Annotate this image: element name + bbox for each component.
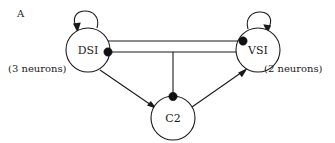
node-c2-label: C2 [165,112,180,125]
edge-dsi-to-c2 [100,70,154,107]
circuit-diagram: DSI VSI C2 A (3 neurons) (2 neurons) [0,0,335,143]
figure-panel: DSI VSI C2 A (3 neurons) (2 neurons) [0,0,335,143]
synapse-dot-dsi-to-vsi [239,37,247,45]
dsi-neuron-count-label: (3 neurons) [8,63,67,74]
vsi-neuron-count-label: (2 neurons) [264,63,323,74]
node-c2[interactable]: C2 [151,96,195,140]
node-dsi-label: DSI [78,44,99,57]
synapse-dot-vsi-to-c2 [169,92,177,100]
edge-c2-to-vsi [192,70,245,107]
node-dsi[interactable]: DSI [66,28,110,72]
arrowhead-c2-to-vsi [238,68,247,77]
panel-letter: A [16,8,25,19]
synapse-dot-vsi-to-dsi [104,48,112,56]
node-vsi-label: VSI [247,44,268,57]
